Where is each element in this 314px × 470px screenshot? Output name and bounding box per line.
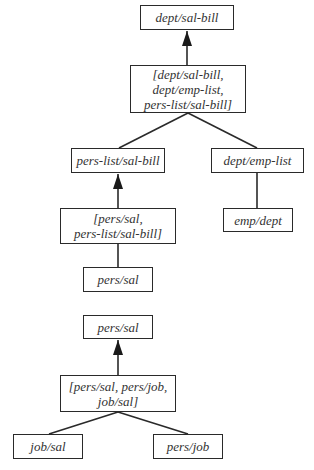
- node-dept-emp-list: dept/emp-list: [211, 148, 304, 173]
- edge-m2-m4: [118, 412, 188, 434]
- node-pers-job: pers/job: [153, 434, 223, 459]
- arrowhead-icon: [113, 174, 123, 189]
- node-pers-job-join-set: [pers/sal, pers/job, job/sal]: [60, 375, 176, 412]
- arrowhead-icon: [182, 31, 192, 46]
- node-job-sal: job/sal: [13, 434, 83, 459]
- node-emp-dept: emp/dept: [223, 208, 293, 232]
- node-dept-sal-bill: dept/sal-bill: [140, 5, 234, 30]
- node-pers-list-sal-bill: pers-list/sal-bill: [71, 148, 165, 173]
- edge-m2-m3: [49, 412, 118, 434]
- edge-n2-n3: [119, 113, 188, 148]
- node-pers-sal: pers/sal: [83, 267, 153, 292]
- node-pers-sal-join-set: [pers/sal, pers-list/sal-bill]: [60, 208, 176, 244]
- node-pers-sal-root: pers/sal: [83, 315, 153, 339]
- edge-n2-n4: [188, 113, 257, 148]
- arrowhead-icon: [113, 340, 123, 355]
- node-dept-join-set: [dept/sal-bill, dept/emp-list, pers-list…: [130, 65, 246, 113]
